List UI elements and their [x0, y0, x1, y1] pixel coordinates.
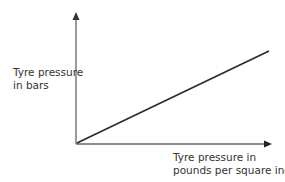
x-axis-arrow-icon [264, 141, 272, 148]
data-line [77, 51, 269, 143]
x-axis-label-line-1: Tyre pressure in [173, 151, 285, 164]
y-axis-label-line-1: Tyre pressure [13, 66, 83, 79]
x-axis-label: Tyre pressure in pounds per square inch [173, 151, 285, 176]
y-axis-arrow-icon [73, 12, 80, 20]
y-axis-label: Tyre pressure in bars [13, 66, 83, 91]
x-axis-label-line-2: pounds per square inch [173, 164, 285, 177]
y-axis-label-line-2: in bars [13, 79, 83, 92]
